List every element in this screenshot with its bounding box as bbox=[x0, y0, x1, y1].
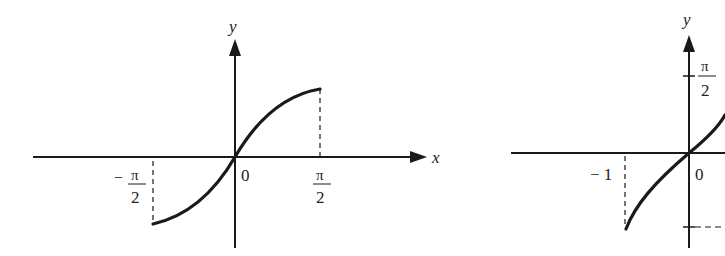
arcsine-curve bbox=[626, 115, 725, 229]
function-graphs: y x 0 − π 2 π 2 y 0 − 1 π 2 bbox=[0, 0, 725, 256]
arcsine-graph: y 0 − 1 π 2 bbox=[511, 10, 725, 248]
left-neg-sign: − bbox=[114, 169, 123, 186]
sine-graph: y x 0 − π 2 π 2 bbox=[33, 17, 440, 248]
right-y-arrow-icon bbox=[683, 35, 695, 52]
left-x-label: x bbox=[431, 148, 440, 167]
left-pos-two: 2 bbox=[316, 188, 325, 207]
left-y-label: y bbox=[227, 17, 237, 36]
left-neg-pi: π bbox=[131, 167, 139, 183]
left-origin-label: 0 bbox=[241, 166, 250, 185]
left-y-arrow-icon bbox=[229, 39, 241, 56]
left-x-arrow-icon bbox=[410, 151, 427, 163]
right-neg-one-label: − 1 bbox=[590, 165, 612, 184]
right-pos-pi: π bbox=[701, 58, 709, 74]
right-y-label: y bbox=[681, 10, 691, 29]
left-pos-pi: π bbox=[316, 167, 324, 183]
right-origin-label: 0 bbox=[695, 165, 704, 184]
right-pos-two: 2 bbox=[701, 81, 710, 100]
left-neg-two: 2 bbox=[131, 188, 140, 207]
